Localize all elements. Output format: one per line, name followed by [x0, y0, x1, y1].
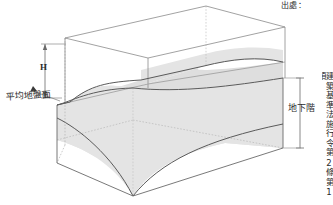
basement-level-label: 地下階 — [288, 104, 314, 113]
vertical-source-text: 建築基準法施行令第2條第1項 — [322, 72, 333, 204]
height-dimension-label: H — [40, 63, 47, 72]
h-dimension-arrow-top — [43, 44, 47, 50]
source-prefix-label: 出處： — [281, 2, 306, 10]
